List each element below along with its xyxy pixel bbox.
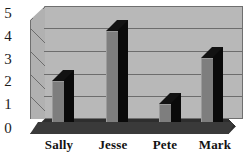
y-axis-tick-1: 1 (0, 97, 18, 112)
gridline-y4-side (30, 28, 45, 43)
y-axis-tick-5: 5 (0, 6, 18, 21)
y-axis-tick-4: 4 (0, 29, 18, 44)
x-axis-label-sally: Sally (32, 138, 86, 151)
y-axis-tick-2: 2 (0, 74, 18, 89)
gridline-y3-side (30, 51, 45, 66)
plot-left-wall-top-edge (30, 6, 46, 21)
x-axis-label-jesse: Jesse (86, 138, 140, 151)
gridline-y2-side (30, 74, 45, 89)
bar-shadow-mark (212, 47, 223, 122)
bar-face-mark (201, 58, 213, 122)
y-axis-tick-3: 3 (0, 52, 18, 67)
bar-face-pete (159, 104, 171, 122)
x-axis-label-pete: Pete (140, 138, 190, 151)
bar-face-sally (52, 81, 64, 122)
gridline-y1-side (30, 96, 45, 111)
bar-face-jesse (106, 31, 118, 122)
bar-shadow-jesse (117, 20, 128, 122)
gridline-y4 (44, 28, 243, 29)
plot-floor-front-lip (30, 122, 243, 134)
x-axis-label-mark: Mark (188, 138, 242, 151)
floor-right-corner-mask (228, 119, 245, 135)
bar-chart: 5 4 3 2 1 0 Sally Jesse Pete Mark (0, 0, 245, 152)
y-axis-tick-0: 0 (0, 121, 18, 136)
